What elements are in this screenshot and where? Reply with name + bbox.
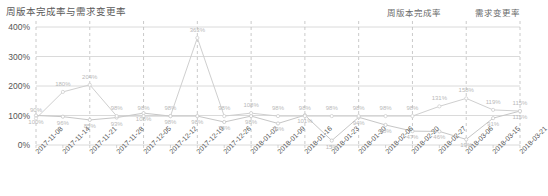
data-point xyxy=(88,83,91,86)
data-point xyxy=(276,114,279,117)
data-point-label: 98% xyxy=(164,105,176,111)
data-point-label: 73% xyxy=(272,126,284,132)
data-point xyxy=(465,97,468,100)
data-point-label: 68% xyxy=(380,128,392,134)
data-point-label: 115% xyxy=(513,100,528,106)
data-point-label: 90% xyxy=(30,107,42,113)
data-point-label: 158% xyxy=(459,87,474,93)
data-point xyxy=(223,120,226,123)
data-point xyxy=(492,117,495,120)
data-point-label: 94% xyxy=(353,120,365,126)
data-point-label: 85% xyxy=(84,123,96,129)
data-point-label: 100% xyxy=(28,119,43,125)
data-point-label: 98% xyxy=(218,105,230,111)
data-point-label: 98% xyxy=(272,105,284,111)
data-point-label: 108% xyxy=(243,102,258,108)
data-point-label: 108% xyxy=(136,116,151,122)
data-point xyxy=(330,114,333,117)
data-point-label: 180% xyxy=(55,81,70,87)
data-point xyxy=(492,108,495,111)
data-point-label: 98% xyxy=(406,105,418,111)
data-point-label: 204% xyxy=(82,74,97,80)
data-point-label: 98% xyxy=(164,119,176,125)
data-point xyxy=(61,90,64,93)
data-point xyxy=(115,114,118,117)
data-point-label: 101% xyxy=(297,118,312,124)
data-point-label: 98% xyxy=(326,105,338,111)
data-point-label: 15% xyxy=(326,144,338,150)
data-point xyxy=(169,114,172,117)
data-point-label: 78% xyxy=(218,125,230,131)
y-axis-tick-label: 300% xyxy=(0,52,30,62)
y-axis-tick-label: 200% xyxy=(0,81,30,91)
data-point-label: 98% xyxy=(245,119,257,125)
y-axis-tick-label: 0% xyxy=(0,140,30,150)
data-point-label: 47% xyxy=(406,134,418,140)
data-point xyxy=(250,112,253,115)
data-point xyxy=(411,114,414,117)
data-point xyxy=(223,114,226,117)
data-point-label: 98% xyxy=(380,105,392,111)
data-point-label: 96% xyxy=(57,120,69,126)
data-point xyxy=(196,114,199,117)
data-point-label: 98% xyxy=(111,105,123,111)
data-point xyxy=(438,105,441,108)
data-point xyxy=(384,114,387,117)
data-point-label: 98% xyxy=(299,105,311,111)
y-axis-tick-label: 100% xyxy=(0,111,30,121)
data-point xyxy=(196,36,199,39)
data-point xyxy=(465,138,468,141)
data-point-label: 119% xyxy=(486,99,501,105)
y-axis-tick-label: 400% xyxy=(0,22,30,32)
data-point-label: 98% xyxy=(191,119,203,125)
data-point-label: 46% xyxy=(433,134,445,140)
data-point xyxy=(357,114,360,117)
data-point-label: 98% xyxy=(138,105,150,111)
data-point-label: 93% xyxy=(111,121,123,127)
data-point xyxy=(518,109,521,112)
data-point-label: 363% xyxy=(190,27,205,33)
data-point xyxy=(303,114,306,117)
data-point-label: 131% xyxy=(432,95,447,101)
data-point xyxy=(61,115,64,118)
data-point-label: 115% xyxy=(513,114,528,120)
data-point-label: 19% xyxy=(460,142,472,148)
data-point-label: 91% xyxy=(487,121,499,127)
data-point xyxy=(88,118,91,121)
data-point xyxy=(276,122,279,125)
data-point-label: 98% xyxy=(353,105,365,111)
data-point xyxy=(330,139,333,142)
